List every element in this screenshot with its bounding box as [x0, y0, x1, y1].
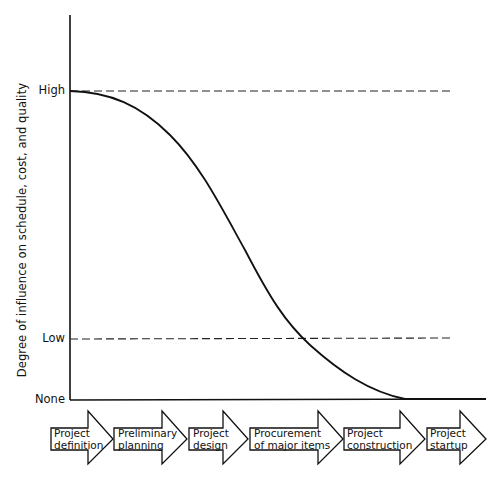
phase-label-4-line2: of major items [254, 439, 330, 451]
phase-label-6-line2: startup [430, 439, 468, 451]
tick-label-high: High [25, 83, 65, 97]
phase-label-6-line1: Project [430, 427, 468, 439]
phase-label-2: Preliminary planning [118, 427, 177, 451]
influence-curve [70, 91, 486, 399]
low-reference-line [70, 338, 450, 339]
tick-label-none: None [25, 392, 65, 406]
phase-label-1-line2: definition [54, 439, 103, 451]
phase-label-5: Project construction [347, 427, 412, 451]
phase-label-2-line1: Preliminary [118, 427, 177, 439]
phase-label-1-line1: Project [54, 427, 103, 439]
phase-label-6: Project startup [430, 427, 468, 451]
phase-label-2-line2: planning [118, 439, 177, 451]
tick-label-low: Low [25, 331, 65, 345]
phase-label-5-line2: construction [347, 439, 412, 451]
phase-label-3: Project design [193, 427, 229, 451]
phase-label-4: Procurement of major items [254, 427, 330, 451]
chart-canvas [0, 0, 501, 480]
phase-label-3-line1: Project [193, 427, 229, 439]
influence-curve-figure: Degree of influence on schedule, cost, a… [0, 0, 501, 480]
phase-label-5-line1: Project [347, 427, 412, 439]
phase-label-4-line1: Procurement [254, 427, 330, 439]
phase-label-3-line2: design [193, 439, 229, 451]
phase-label-1: Project definition [54, 427, 103, 451]
